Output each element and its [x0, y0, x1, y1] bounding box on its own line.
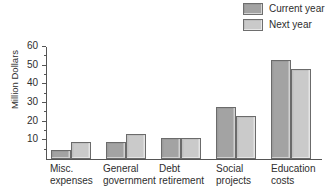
bar-next-year [126, 134, 146, 159]
y-tick-label-30: 30 [27, 96, 38, 107]
x-label-education-costs: Educationcosts [271, 163, 315, 187]
legend-label-current-year: Current year [269, 3, 325, 15]
y-minor-tick-15 [44, 130, 46, 131]
x-axis-line [46, 159, 322, 160]
y-tick-50: 50 [42, 65, 46, 66]
bar-current-year [51, 150, 71, 159]
y-tick-label-50: 50 [27, 59, 38, 70]
bar-next-year [181, 138, 201, 159]
bar-current-year [271, 60, 291, 159]
y-minor-tick-5 [44, 149, 46, 150]
y-minor-tick-45 [44, 74, 46, 75]
legend-swatch-current-year [243, 3, 263, 15]
bar-current-year [216, 107, 236, 159]
legend-swatch-next-year [243, 19, 263, 31]
bar-next-year [236, 116, 256, 159]
legend-item-next-year: Next year [243, 18, 325, 31]
y-axis-title: Million Dollars [9, 40, 20, 120]
y-minor-tick-55 [44, 55, 46, 56]
legend-item-current-year: Current year [243, 2, 325, 15]
y-tick-10: 10 [42, 139, 46, 140]
bar-group [51, 47, 91, 159]
y-tick-20: 20 [42, 121, 46, 122]
x-label-debt-retirement: Debtretirement [159, 163, 204, 187]
bar-group [106, 47, 146, 159]
bar-group [271, 47, 311, 159]
x-label-general-government: Generalgovernment [103, 163, 156, 187]
x-label-misc-expenses: Misc.expenses [50, 163, 93, 187]
bar-next-year [71, 142, 91, 159]
y-minor-tick-35 [44, 93, 46, 94]
y-tick-label-20: 20 [27, 115, 38, 126]
y-tick-60: 60 [42, 46, 46, 47]
y-tick-40: 40 [42, 83, 46, 84]
x-axis-labels: Misc.expensesGeneralgovernmentDebtretire… [46, 163, 331, 195]
bar-next-year [291, 69, 311, 159]
bar-group [161, 47, 201, 159]
plot-area: 102030405060 [46, 47, 322, 159]
legend-label-next-year: Next year [269, 19, 312, 31]
bars-layer [47, 47, 322, 159]
bar-current-year [106, 142, 126, 159]
y-tick-30: 30 [42, 102, 46, 103]
bar-chart: Current year Next year Million Dollars 1… [0, 0, 331, 195]
bar-current-year [161, 138, 181, 159]
y-tick-label-60: 60 [27, 40, 38, 51]
bar-group [216, 47, 256, 159]
chart-legend: Current year Next year [243, 2, 325, 31]
y-minor-tick-25 [44, 111, 46, 112]
y-tick-label-10: 10 [27, 133, 38, 144]
x-label-social-projects: Socialprojects [216, 163, 251, 187]
y-tick-label-40: 40 [27, 77, 38, 88]
